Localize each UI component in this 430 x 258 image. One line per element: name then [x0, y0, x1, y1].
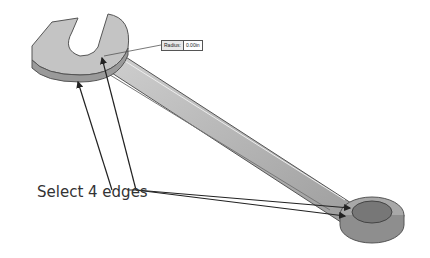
arrow-1 [78, 82, 112, 190]
cad-viewport[interactable]: Radius: 0.00in Select 4 edges [0, 0, 430, 258]
radius-dimension-tag[interactable]: Radius: 0.00in [161, 40, 203, 51]
radius-label: Radius: [162, 41, 183, 50]
radius-value[interactable]: 0.00in [183, 41, 202, 50]
wrench-model[interactable] [0, 0, 430, 258]
select-edges-callout: Select 4 edges [37, 183, 148, 201]
